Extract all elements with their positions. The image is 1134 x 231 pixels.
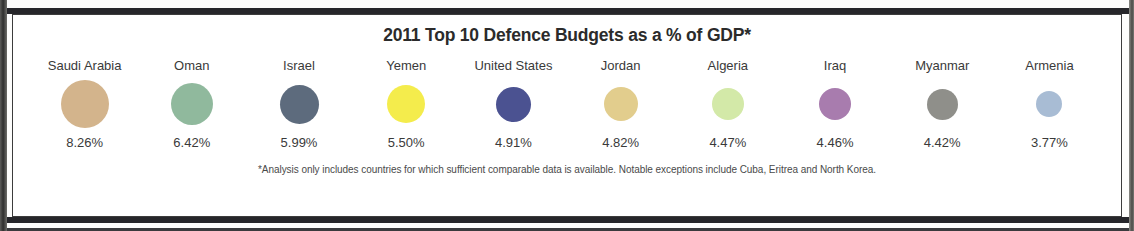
bubble-marker bbox=[819, 88, 851, 120]
scan-edge-right bbox=[1129, 0, 1134, 231]
page-rule-bottom-secondary bbox=[7, 228, 1129, 231]
country-label: Saudi Arabia bbox=[48, 58, 122, 73]
bubble-marker bbox=[1036, 91, 1062, 117]
bubble-marker bbox=[927, 89, 958, 120]
bubble-marker bbox=[604, 87, 638, 121]
value-label: 4.91% bbox=[495, 135, 532, 150]
value-label: 3.77% bbox=[1031, 135, 1068, 150]
scan-edge-left bbox=[0, 0, 7, 231]
bubble-marker bbox=[171, 83, 213, 125]
country-label: Myanmar bbox=[915, 58, 969, 73]
bubble-slot bbox=[460, 73, 567, 135]
country-label: Armenia bbox=[1025, 58, 1073, 73]
bubble-slot bbox=[31, 73, 138, 135]
bubble-marker bbox=[387, 85, 425, 123]
bubble-chart: Saudi Arabia8.26%Oman6.42%Israel5.99%Yem… bbox=[13, 58, 1121, 150]
bubble-column: Armenia3.77% bbox=[996, 58, 1103, 150]
chart-card: 2011 Top 10 Defence Budgets as a % of GD… bbox=[12, 14, 1122, 217]
value-label: 4.47% bbox=[709, 135, 746, 150]
bubble-column: Algeria4.47% bbox=[674, 58, 781, 150]
bubble-column: Israel5.99% bbox=[245, 58, 352, 150]
value-label: 6.42% bbox=[173, 135, 210, 150]
value-label: 8.26% bbox=[66, 135, 103, 150]
bubble-slot bbox=[245, 73, 352, 135]
bubble-column: Yemen5.50% bbox=[353, 58, 460, 150]
chart-footnote: *Analysis only includes countries for wh… bbox=[13, 164, 1121, 175]
value-label: 4.46% bbox=[817, 135, 854, 150]
bubble-column: Jordan4.82% bbox=[567, 58, 674, 150]
bubble-marker bbox=[61, 80, 109, 128]
country-label: Algeria bbox=[708, 58, 748, 73]
bubble-marker bbox=[712, 88, 744, 120]
country-label: Oman bbox=[174, 58, 209, 73]
country-label: Iraq bbox=[824, 58, 846, 73]
bubble-marker bbox=[496, 87, 531, 122]
bubble-slot bbox=[353, 73, 460, 135]
bubble-marker bbox=[280, 85, 319, 124]
page-rule-bottom bbox=[7, 217, 1129, 223]
bubble-column: Saudi Arabia8.26% bbox=[31, 58, 138, 150]
country-label: Israel bbox=[283, 58, 315, 73]
scanned-page: 2011 Top 10 Defence Budgets as a % of GD… bbox=[0, 0, 1134, 231]
bubble-slot bbox=[781, 73, 888, 135]
value-label: 4.42% bbox=[924, 135, 961, 150]
bubble-column: Oman6.42% bbox=[138, 58, 245, 150]
bubble-slot bbox=[889, 73, 996, 135]
bubble-slot bbox=[138, 73, 245, 135]
country-label: Yemen bbox=[386, 58, 426, 73]
bubble-slot bbox=[567, 73, 674, 135]
chart-title: 2011 Top 10 Defence Budgets as a % of GD… bbox=[13, 25, 1121, 46]
bubble-slot bbox=[674, 73, 781, 135]
country-label: United States bbox=[474, 58, 552, 73]
bubble-column: United States4.91% bbox=[460, 58, 567, 150]
country-label: Jordan bbox=[601, 58, 641, 73]
value-label: 4.82% bbox=[602, 135, 639, 150]
bubble-column: Iraq4.46% bbox=[781, 58, 888, 150]
bubble-column: Myanmar4.42% bbox=[889, 58, 996, 150]
bubble-slot bbox=[996, 73, 1103, 135]
value-label: 5.99% bbox=[281, 135, 318, 150]
value-label: 5.50% bbox=[388, 135, 425, 150]
